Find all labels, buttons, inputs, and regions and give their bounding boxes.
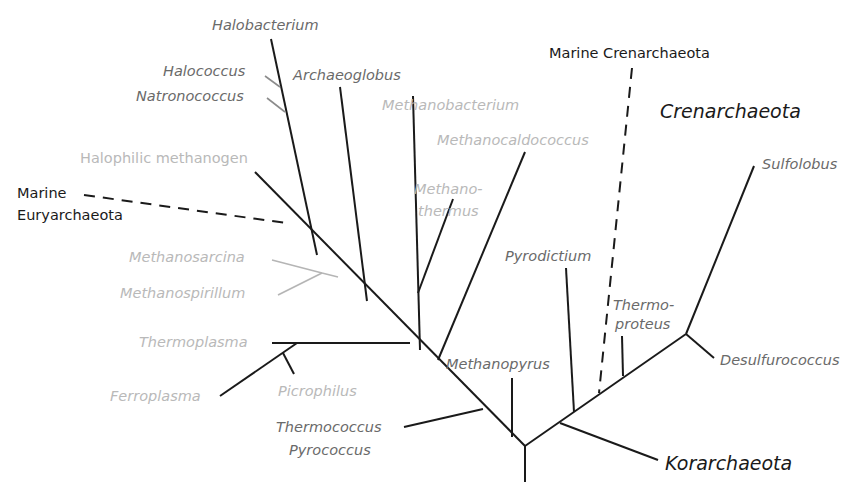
- label-pyrococcus: Pyrococcus: [289, 441, 371, 459]
- label-korarchaeota: Korarchaeota: [665, 452, 792, 474]
- label-thermoplasma: Thermoplasma: [139, 333, 248, 351]
- branch-methanospirillum: [278, 273, 322, 295]
- label-halophilic-methanogen: Halophilic methanogen: [80, 149, 248, 167]
- label-crenarchaeota: Crenarchaeota: [660, 100, 801, 122]
- branch-thermoproteus: [622, 336, 623, 376]
- phylogenetic-tree-diagram: Halobacterium Halococcus Natronococcus A…: [0, 0, 866, 498]
- branch-marine-crenarchaeota: [599, 68, 632, 393]
- label-marine-euryarchaeota-2: Euryarchaeota: [17, 206, 123, 224]
- crenarchaeota-trunk: [525, 334, 686, 446]
- label-thermococcus: Thermococcus: [276, 418, 381, 436]
- label-desulfurococcus: Desulfurococcus: [720, 351, 840, 369]
- branch-halococcus: [265, 76, 280, 87]
- label-halococcus: Halococcus: [163, 62, 245, 80]
- label-halobacterium: Halobacterium: [212, 16, 319, 34]
- branch-korarchaeota: [560, 423, 658, 460]
- label-methanothermus-2: thermus: [418, 202, 478, 220]
- label-marine-euryarchaeota-1: Marine: [17, 184, 67, 202]
- branch-methanosarcina: [272, 260, 322, 273]
- label-ferroplasma: Ferroplasma: [110, 387, 201, 405]
- label-sulfolobus: Sulfolobus: [762, 155, 837, 173]
- label-thermoproteus-2: proteus: [615, 315, 670, 333]
- branch-natronococcus: [267, 98, 285, 112]
- branch-methanobacterium: [413, 96, 420, 350]
- label-methanosarcina: Methanosarcina: [129, 248, 245, 266]
- label-marine-crenarchaeota: Marine Crenarchaeota: [549, 44, 710, 62]
- label-picrophilus: Picrophilus: [278, 382, 357, 400]
- branch-archaeoglobus: [340, 87, 367, 301]
- branch-sulfolobus: [686, 166, 754, 334]
- label-natronococcus: Natronococcus: [136, 87, 244, 105]
- label-archaeoglobus: Archaeoglobus: [293, 66, 401, 84]
- label-pyrodictium: Pyrodictium: [505, 247, 591, 265]
- branch-thermococcus: [404, 409, 483, 427]
- label-thermoproteus-1: Thermo-: [613, 296, 674, 314]
- branch-picrophilus: [283, 353, 294, 374]
- label-methanocaldococcus: Methanocaldococcus: [437, 131, 589, 149]
- branch-pyrodictium: [566, 268, 574, 412]
- euryarchaeota-trunk: [255, 172, 525, 446]
- label-methanothermus-1: Methano-: [414, 180, 474, 198]
- branch-methanosarcina-stem: [322, 273, 338, 277]
- label-methanospirillum: Methanospirillum: [120, 284, 245, 302]
- branch-desulfurococcus: [686, 334, 714, 358]
- label-methanobacterium: Methanobacterium: [382, 96, 519, 114]
- label-methanopyrus: Methanopyrus: [446, 355, 550, 373]
